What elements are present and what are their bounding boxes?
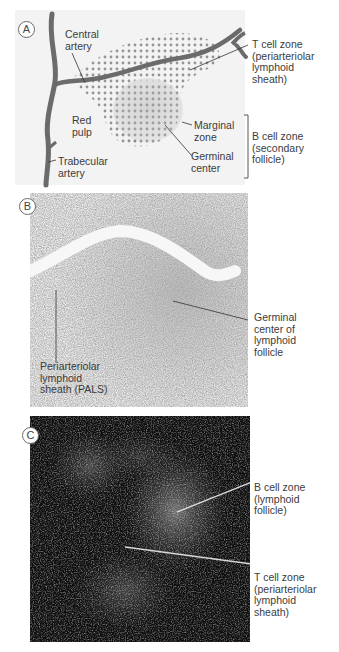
- label-germinal-center-a: Germinal center: [191, 151, 234, 174]
- label-marginal-zone: Marginal zone: [194, 120, 234, 143]
- label-germinal-center-b: Germinal center of lymphoid follicle: [254, 312, 297, 358]
- panel-a-letter: A: [18, 21, 35, 38]
- label-t-cell-zone-c: T cell zone (periarteriolar lymphoid she…: [254, 572, 316, 618]
- label-red-pulp: Red pulp: [72, 115, 92, 138]
- label-pals: Periarteriolar lymphoid sheath (PALS): [40, 361, 108, 396]
- panel-b-letter: B: [19, 198, 36, 215]
- label-t-cell-zone-a: T cell zone (periarteriolar lymphoid she…: [252, 39, 314, 85]
- trabecular-artery-shape: [46, 14, 56, 185]
- label-central-artery: Central artery: [65, 29, 99, 52]
- panel-a-schematic: [0, 0, 339, 200]
- label-b-cell-zone-c: B cell zone (lymphoid follicle): [254, 482, 305, 517]
- panel-c-letter: C: [22, 427, 39, 444]
- label-trabecular-artery: Trabecular artery: [58, 156, 108, 179]
- label-b-cell-zone-a: B cell zone (secondary follicle): [252, 131, 304, 166]
- panel-c-micrograph: [30, 416, 250, 642]
